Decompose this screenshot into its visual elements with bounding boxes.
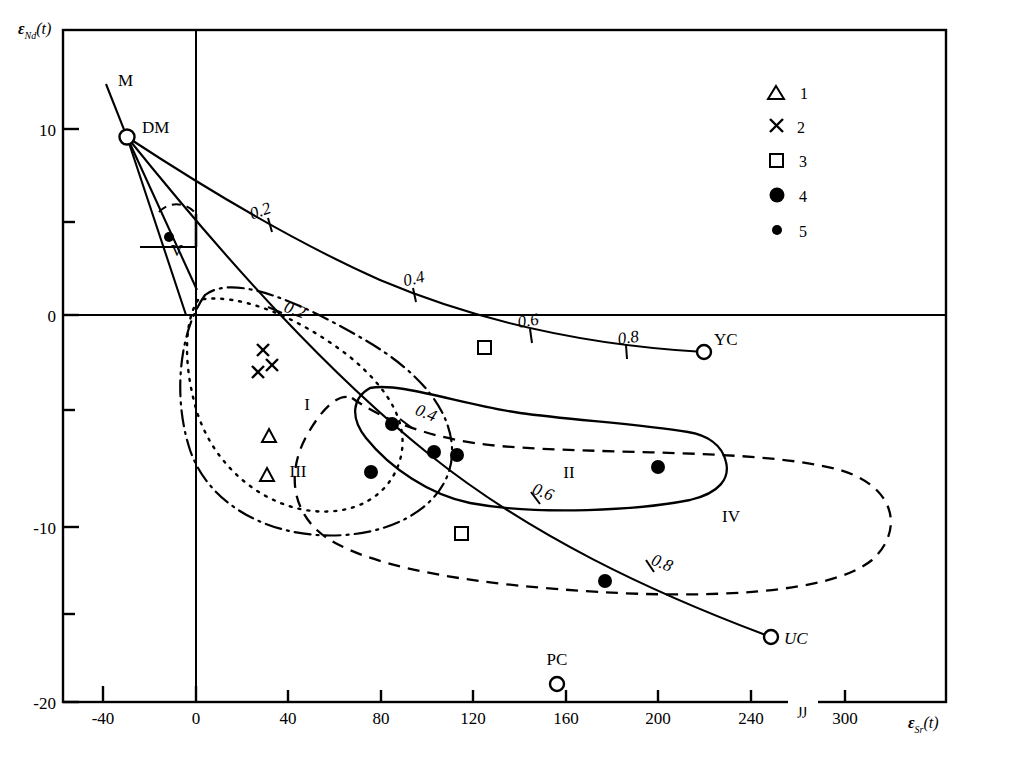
y-tick-label: 0	[48, 307, 57, 326]
legend-marker-filled-circle-large	[770, 188, 785, 203]
x-tick-label: 0	[192, 709, 201, 728]
legend-label-1: 1	[800, 85, 808, 102]
endmember-label-m: M	[118, 71, 133, 90]
x-axis-tick-labels: -40 0 40 80 120 160 200 240 300	[92, 709, 858, 728]
endmember-yc: YC	[697, 330, 738, 359]
y-axis-title: εNd(t)	[18, 20, 51, 41]
x-tick-label: 40	[280, 709, 297, 728]
x-tick-label: 120	[460, 709, 486, 728]
endmember-label-pc: PC	[547, 650, 568, 669]
mix-fraction-label: 0.6	[530, 479, 557, 505]
x-tick-label: 300	[832, 709, 858, 728]
legend-marker-filled-circle-small	[772, 225, 782, 235]
mixing-curve-dm-uc: 0.2 0.4 0.6 0.8	[127, 137, 771, 637]
data-point-filled-circle	[598, 574, 612, 588]
endmember-uc: UC	[764, 629, 808, 648]
x-tick-label: -40	[92, 709, 115, 728]
data-point-filled-circle	[450, 448, 464, 462]
endmember-dm: DM	[120, 118, 170, 145]
data-point-filled-circle	[385, 417, 399, 431]
svg-text:εSr(t): εSr(t)	[908, 714, 939, 735]
legend: 1 2 3 4 5	[768, 85, 808, 240]
x-axis-title-arg: (t)	[923, 714, 938, 732]
data-point-cross-group	[252, 344, 278, 378]
data-point-triangle	[260, 468, 274, 481]
region-label-iv: IV	[722, 507, 741, 526]
data-point-filled-circle	[427, 445, 441, 459]
data-point-filled-circle	[651, 460, 665, 474]
region-label-i: I	[304, 395, 310, 414]
mix-fraction-label: 0.4	[413, 400, 440, 426]
x-tick-label: 80	[373, 709, 390, 728]
svg-text:εNd(t): εNd(t)	[18, 20, 51, 41]
region-iv-boundary	[295, 397, 891, 595]
endmember-label-uc: UC	[784, 629, 808, 648]
y-axis-ticks	[63, 129, 79, 702]
x-axis-ticks	[103, 686, 845, 702]
endmember-pc: PC	[547, 650, 568, 691]
endmember-label-yc: YC	[714, 330, 738, 349]
mix-fraction-label: 0.2	[247, 198, 274, 223]
legend-label-5: 5	[799, 223, 807, 240]
data-point-triangle	[262, 429, 276, 442]
zero-axes	[63, 30, 946, 702]
legend-marker-open-square	[770, 154, 783, 167]
x-axis-title: εSr(t)	[908, 714, 939, 735]
data-point-filled-circle	[364, 465, 378, 479]
mixing-diagram-svg: 10 0 -10 -20 -40 0 40 80 120 160 200 240	[0, 0, 1009, 759]
data-point-square	[455, 527, 468, 540]
data-point-square	[478, 341, 491, 354]
open-circle-icon	[764, 630, 778, 644]
mix-fraction-label: 0.8	[649, 550, 676, 576]
mix-fraction-label: 0.4	[401, 267, 426, 290]
data-point-filled-circle-small	[164, 232, 174, 242]
region-label-ii: II	[563, 463, 575, 482]
x-tick-label: 240	[738, 709, 764, 728]
x-axis-title-sub: Sr	[915, 724, 924, 735]
region-label-iii: III	[290, 462, 307, 481]
legend-marker-cross	[770, 119, 783, 132]
legend-marker-open-triangle	[768, 86, 784, 99]
y-tick-label: -10	[33, 519, 56, 538]
endmember-m: M	[118, 71, 133, 90]
mix-fraction-label: 0.6	[516, 309, 540, 331]
figure-root: 10 0 -10 -20 -40 0 40 80 120 160 200 240	[0, 0, 1009, 759]
region-iii-boundary	[180, 287, 452, 535]
region-label-v: V	[171, 241, 184, 260]
open-circle-icon	[120, 130, 135, 145]
y-axis-tick-labels: 10 0 -10 -20	[33, 121, 56, 713]
legend-label-3: 3	[799, 153, 807, 170]
region-labels: I II III IV V	[171, 241, 741, 526]
y-axis-title-arg: (t)	[36, 20, 51, 38]
legend-label-2: 2	[797, 119, 805, 136]
legend-label-4: 4	[799, 188, 807, 205]
open-circle-icon	[550, 677, 564, 691]
x-tick-label: 200	[645, 709, 671, 728]
open-circle-icon	[697, 345, 711, 359]
endmember-label-dm: DM	[142, 118, 169, 137]
y-tick-label: -20	[33, 694, 56, 713]
x-tick-label: 160	[553, 709, 579, 728]
axis-break-symbol: ∫∫	[788, 697, 818, 718]
y-tick-label: 10	[39, 121, 56, 140]
y-axis-title-sub: Nd	[24, 30, 38, 41]
mix-fraction-label: 0.8	[616, 327, 640, 349]
mixing-curve-dm-yc: 0.2 0.4 0.6 0.8	[127, 137, 704, 359]
